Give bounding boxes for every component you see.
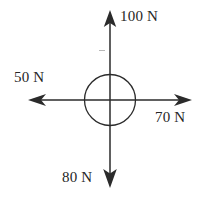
force-label-right: 70 N bbox=[155, 110, 185, 125]
force-label-down: 80 N bbox=[62, 170, 92, 185]
force-label-left: 50 N bbox=[14, 70, 44, 85]
force-vector-graphic bbox=[0, 0, 214, 201]
force-arrow-left bbox=[28, 94, 110, 106]
force-arrow-up bbox=[104, 10, 116, 100]
force-arrow-down bbox=[103, 100, 117, 188]
force-diagram: 100 N 50 N 70 N 80 N bbox=[0, 0, 214, 201]
force-arrow-right bbox=[110, 94, 192, 106]
force-label-up: 100 N bbox=[120, 9, 158, 24]
